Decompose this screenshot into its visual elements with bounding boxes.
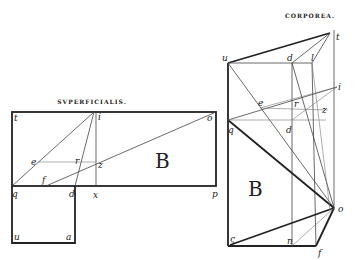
label-z: z (321, 105, 327, 115)
label-t: t (336, 32, 340, 42)
title-superficialis: SVPERFICIALIS. (57, 98, 127, 105)
diagram-canvas: SVPERFICIALIS. t i o e r z f q d x p u a… (0, 0, 355, 260)
label-t: t (14, 113, 18, 123)
label-a: a (66, 232, 71, 242)
figure-superficialis: SVPERFICIALIS. t i o e r z f q d x p u a… (12, 98, 218, 243)
label-d: d (69, 189, 75, 199)
line-u-o (228, 63, 334, 208)
label-d-mid: d (286, 125, 292, 135)
label-l: l (311, 53, 314, 63)
label-u: u (14, 232, 20, 242)
title-corporea: CORPOREA. (285, 12, 335, 19)
label-f: f (41, 175, 47, 185)
line-d-o (292, 63, 334, 208)
label-n: n (287, 236, 293, 246)
region-label-b-right: B (248, 177, 263, 201)
region-label-b-left: B (155, 149, 170, 173)
label-i: i (338, 82, 341, 92)
line-q-o (228, 120, 334, 208)
line-q-i (228, 87, 337, 120)
label-e: e (258, 98, 263, 108)
figure-corporea: CORPOREA. t u d l i e r z q (222, 12, 344, 258)
label-q: q (228, 125, 234, 135)
label-q: q (12, 189, 18, 199)
line-d-i (75, 112, 94, 186)
label-o: o (207, 113, 213, 123)
label-d-top: d (287, 53, 293, 63)
label-o: o (338, 204, 344, 214)
label-r: r (75, 156, 80, 166)
line-n-o (293, 208, 334, 245)
label-u: u (222, 53, 228, 63)
label-p: p (212, 189, 218, 199)
label-z: z (97, 160, 103, 170)
line-f-o (46, 112, 216, 186)
line-d-i (292, 87, 337, 120)
label-e: e (31, 157, 36, 167)
line-q-i (12, 112, 94, 186)
label-f: f (317, 248, 323, 258)
label-i: i (98, 112, 101, 122)
label-x: x (93, 190, 98, 200)
label-r: r (294, 99, 299, 109)
